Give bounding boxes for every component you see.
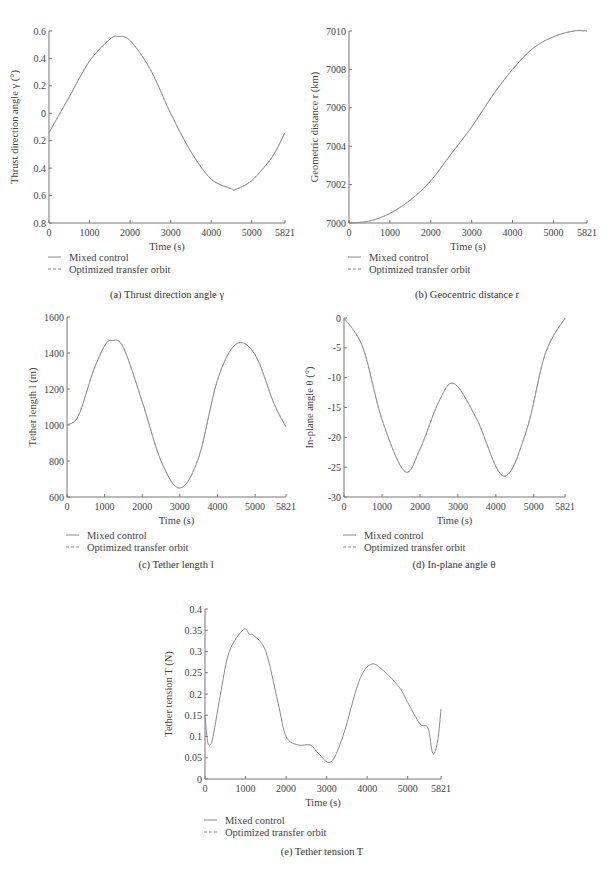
x-axis-label: Time (s) xyxy=(450,241,486,253)
x-axis-label: Time (s) xyxy=(149,241,185,253)
legend-optimized-transfer-orbit: Optimized transfer orbit xyxy=(364,542,466,553)
chart-b: 0100020003000400050005821701070087006700… xyxy=(309,26,597,302)
x-tick-label: 5000 xyxy=(242,227,262,238)
chart-caption: (b) Geocentric distance r xyxy=(415,289,520,301)
legend-mixed-control: Mixed control xyxy=(225,815,285,826)
x-tick-label: 4000 xyxy=(503,227,523,238)
series-optimized-transfer-orbit xyxy=(67,340,286,488)
series-mixed-control xyxy=(349,31,587,223)
legend-optimized-transfer-orbit: Optimized transfer orbit xyxy=(87,542,189,553)
x-tick-label: 1000 xyxy=(380,227,400,238)
chart-caption: (c) Tether length l xyxy=(138,559,213,571)
x-tick-label: 0 xyxy=(342,501,347,512)
chart-c: 0100020003000400050005821160014001200100… xyxy=(27,312,296,572)
y-tick-label: 0.35 xyxy=(185,625,203,636)
y-axis-label: Thrust direction angle γ (°) xyxy=(9,70,21,184)
y-tick-label: 7004 xyxy=(326,141,346,152)
x-axis-label: Time (s) xyxy=(305,797,341,809)
x-tick-label: 5000 xyxy=(543,227,563,238)
series-mixed-control xyxy=(67,340,286,488)
y-tick-label: 0.15 xyxy=(185,710,203,721)
y-tick-label: -15 xyxy=(328,402,341,413)
y-tick-label: 0.2 xyxy=(190,689,203,700)
x-tick-label: 3000 xyxy=(448,501,468,512)
series-mixed-control xyxy=(205,629,441,763)
x-tick-label: 2000 xyxy=(132,501,152,512)
x-tick-label: 4000 xyxy=(357,783,377,794)
x-tick-label: 0 xyxy=(65,501,70,512)
y-tick-label: 1600 xyxy=(44,312,64,323)
x-tick-label: 5000 xyxy=(524,501,544,512)
y-tick-label: -20 xyxy=(328,432,341,443)
x-tick-label: 2000 xyxy=(276,783,296,794)
x-tick-label: 2000 xyxy=(120,227,140,238)
chart-d: 01000200030004000500058210-5-10-15-20-25… xyxy=(304,313,575,572)
chart-e: 01000200030004000500058210.40.350.30.250… xyxy=(163,604,451,859)
y-tick-label: 1000 xyxy=(44,420,64,431)
y-tick-label: -10 xyxy=(328,372,341,383)
x-tick-label: 0 xyxy=(347,227,352,238)
y-tick-label: 7006 xyxy=(326,102,346,113)
legend-optimized-transfer-orbit: Optimized transfer orbit xyxy=(369,264,471,275)
y-axis-label: Tether length l (m) xyxy=(27,367,39,446)
x-tick-label: 1000 xyxy=(95,501,115,512)
y-tick-label: 1400 xyxy=(44,348,64,359)
legend-mixed-control: Mixed control xyxy=(69,252,129,263)
chart-caption: (d) In-plane angle θ xyxy=(413,559,496,571)
y-tick-label: 7008 xyxy=(326,64,346,75)
y-tick-label: 0.1 xyxy=(190,731,203,742)
y-tick-label: 0.4 xyxy=(34,163,47,174)
y-tick-label: -25 xyxy=(328,462,341,473)
y-tick-label: 1200 xyxy=(44,384,64,395)
x-tick-label: 5821 xyxy=(431,783,451,794)
y-tick-label: 7000 xyxy=(326,218,346,229)
y-tick-label: -30 xyxy=(328,492,341,503)
series-optimized-transfer-orbit xyxy=(349,31,587,223)
y-tick-label: 0.4 xyxy=(190,604,203,615)
x-tick-label: 4000 xyxy=(486,501,506,512)
x-tick-label: 0 xyxy=(203,783,208,794)
x-tick-label: 4000 xyxy=(201,227,221,238)
y-tick-label: 0.2 xyxy=(34,135,47,146)
x-tick-label: 4000 xyxy=(207,501,227,512)
series-mixed-control xyxy=(49,36,285,190)
legend-optimized-transfer-orbit: Optimized transfer orbit xyxy=(225,827,327,838)
y-tick-label: 0.6 xyxy=(34,26,47,37)
x-tick-label: 3000 xyxy=(161,227,181,238)
x-tick-label: 1000 xyxy=(80,227,100,238)
y-axis-label: In-plane angle θ (°) xyxy=(304,366,316,448)
chart-caption: (a) Thrust direction angle γ xyxy=(110,289,224,301)
x-tick-label: 5821 xyxy=(555,501,575,512)
x-tick-label: 1000 xyxy=(236,783,256,794)
y-tick-label: 0 xyxy=(336,313,341,324)
x-tick-label: 3000 xyxy=(170,501,190,512)
y-tick-label: -5 xyxy=(333,342,341,353)
x-axis-label: Time (s) xyxy=(437,515,473,527)
y-tick-label: 0 xyxy=(41,108,46,119)
x-tick-label: 3000 xyxy=(462,227,482,238)
x-tick-label: 5000 xyxy=(398,783,418,794)
x-tick-label: 3000 xyxy=(317,783,337,794)
y-tick-label: 0.6 xyxy=(34,190,47,201)
x-tick-label: 0 xyxy=(47,227,52,238)
x-axis-label: Time (s) xyxy=(159,515,195,527)
y-tick-label: 800 xyxy=(49,456,64,467)
y-tick-label: 0 xyxy=(197,774,202,785)
series-optimized-transfer-orbit xyxy=(344,318,565,476)
x-tick-label: 5821 xyxy=(577,227,597,238)
chart-caption: (e) Tether tension T xyxy=(281,846,364,858)
y-tick-label: 0.4 xyxy=(34,53,47,64)
legend-mixed-control: Mixed control xyxy=(364,530,424,541)
x-tick-label: 2000 xyxy=(421,227,441,238)
series-optimized-transfer-orbit xyxy=(49,36,285,190)
legend-optimized-transfer-orbit: Optimized transfer orbit xyxy=(69,264,171,275)
y-tick-label: 0.3 xyxy=(190,646,203,657)
figure: 01000200030004000500058210.60.40.200.20.… xyxy=(0,0,609,874)
y-axis-label: Geometric distance r (km) xyxy=(309,71,321,182)
x-tick-label: 5000 xyxy=(245,501,265,512)
series-mixed-control xyxy=(344,318,565,476)
y-tick-label: 0.8 xyxy=(34,218,47,229)
y-tick-label: 600 xyxy=(49,492,64,503)
x-tick-label: 5821 xyxy=(276,501,296,512)
y-tick-label: 7002 xyxy=(326,179,346,190)
